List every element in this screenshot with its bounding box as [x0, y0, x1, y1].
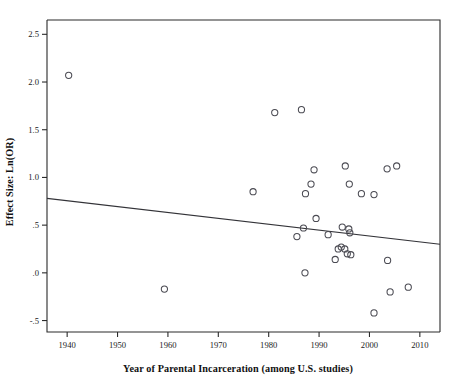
data-point [346, 181, 352, 187]
data-point [332, 256, 338, 262]
data-point [387, 289, 393, 295]
y-tick-label: .5 [33, 220, 39, 230]
x-axis-ticks: 19401950196019701980199020002010 [59, 332, 429, 350]
x-tick-label: 1970 [210, 340, 227, 350]
y-tick-label: 2.0 [28, 77, 39, 87]
x-tick-label: 1940 [59, 340, 76, 350]
data-point [298, 107, 304, 113]
x-tick-label: 1950 [109, 340, 126, 350]
data-point [325, 232, 331, 238]
trend-line [47, 198, 440, 244]
data-point [371, 192, 377, 198]
x-tick-label: 2010 [411, 340, 428, 350]
y-tick-label: .0 [33, 268, 39, 278]
scatter-plot-figure: 19401950196019701980199020002010 -.5.0.5… [0, 0, 454, 381]
data-point [348, 252, 354, 258]
axes [47, 20, 440, 332]
data-point [384, 166, 390, 172]
y-axis-ticks: -.5.0.51.01.52.02.5 [28, 29, 47, 325]
data-point [272, 109, 278, 115]
data-point [385, 257, 391, 263]
x-tick-label: 1980 [260, 340, 277, 350]
data-point [294, 233, 300, 239]
data-point [339, 224, 345, 230]
data-point [250, 189, 256, 195]
x-tick-label: 1990 [310, 340, 327, 350]
data-point [405, 284, 411, 290]
data-point [394, 163, 400, 169]
data-point [302, 270, 308, 276]
y-tick-label: -.5 [30, 316, 39, 326]
data-point [342, 163, 348, 169]
y-tick-label: 1.0 [28, 172, 39, 182]
data-point [66, 72, 72, 78]
y-tick-label: 1.5 [28, 125, 39, 135]
x-tick-label: 2000 [361, 340, 378, 350]
data-point [308, 181, 314, 187]
y-tick-label: 2.5 [28, 29, 39, 39]
y-axis-label: Effect Size: Ln(OR) [4, 138, 16, 226]
data-point [347, 230, 353, 236]
data-point [302, 191, 308, 197]
chart-canvas: 19401950196019701980199020002010 -.5.0.5… [0, 0, 454, 381]
data-point [358, 191, 364, 197]
data-point [313, 215, 319, 221]
data-point [311, 167, 317, 173]
x-tick-label: 1960 [159, 340, 176, 350]
data-points [66, 72, 412, 316]
data-point [371, 310, 377, 316]
x-axis-label: Year of Parental Incarceration (among U.… [123, 363, 353, 375]
data-point [161, 286, 167, 292]
